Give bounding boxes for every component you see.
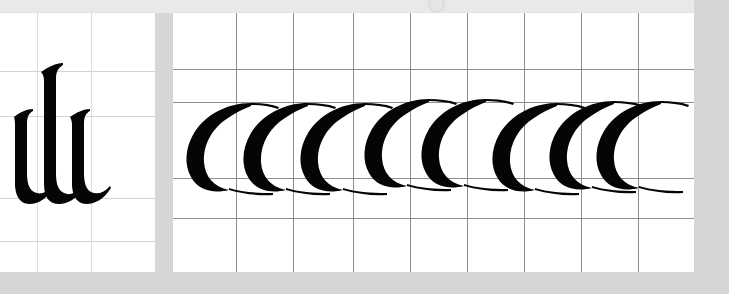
grid-line-horizontal <box>173 178 694 179</box>
grid-line-vertical <box>91 13 92 272</box>
top-chrome-strip <box>0 0 729 13</box>
grid-line-vertical <box>581 13 582 272</box>
minim-plate <box>0 13 155 272</box>
grid-line-horizontal <box>0 116 155 117</box>
plate-gutter <box>155 13 173 272</box>
c-glyph-layer <box>173 13 694 272</box>
grid-line-vertical <box>467 13 468 272</box>
page-edge-bottom <box>0 272 729 294</box>
grid-line-vertical <box>353 13 354 272</box>
grid-line-horizontal <box>0 71 155 72</box>
grid-line-vertical <box>37 13 38 272</box>
minim-glyph-layer <box>0 13 155 272</box>
circle-icon <box>428 0 445 13</box>
grid-line-horizontal <box>173 218 694 219</box>
grid-line-vertical <box>524 13 525 272</box>
grid-line-vertical <box>410 13 411 272</box>
grid-line-vertical <box>638 13 639 272</box>
grid-line-horizontal <box>0 241 155 242</box>
c-stroke-plate <box>173 13 694 272</box>
page-edge-right <box>694 0 729 294</box>
grid-line-vertical <box>293 13 294 272</box>
grid-line-horizontal <box>173 102 694 103</box>
grid-line-horizontal <box>0 198 155 199</box>
grid-line-horizontal <box>173 69 694 70</box>
grid-line-vertical <box>236 13 237 272</box>
scan-page <box>0 0 729 294</box>
